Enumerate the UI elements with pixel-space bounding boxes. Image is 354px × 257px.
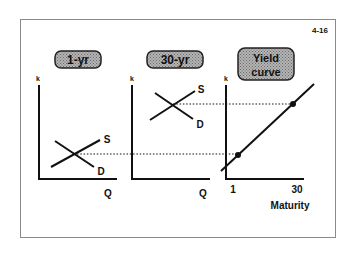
point-1yr: [235, 152, 241, 158]
panel-30yr-market: 30-yr k Q S D: [130, 51, 210, 199]
title-1yr: 1-yr: [67, 53, 89, 67]
supply-label: S: [198, 84, 205, 95]
demand-label: D: [97, 166, 104, 177]
title-curve: curve: [251, 66, 280, 78]
supply-label: S: [104, 134, 111, 145]
title-yield: Yield: [253, 52, 279, 64]
yield-curve-line: [221, 84, 314, 171]
y-axis-label-k: k: [130, 75, 134, 82]
slide-number: 4-16: [312, 26, 329, 35]
title-30yr: 30-yr: [161, 53, 190, 67]
yield-curve-diagram: 4-16 1-yr k Q S D 30-yr k Q S D Yield cu…: [0, 0, 354, 257]
panel-yield-curve: Yield curve k 1 30 Maturity: [221, 48, 314, 211]
y-axis-label-k: k: [36, 75, 40, 82]
x-tick-1: 1: [230, 184, 236, 195]
x-axis-label-q: Q: [104, 188, 112, 199]
x-tick-30: 30: [291, 184, 303, 195]
panel-1yr-market: 1-yr k Q S D: [36, 51, 117, 199]
y-axis-label-k: k: [224, 75, 228, 82]
point-30yr: [290, 101, 296, 107]
x-axis-label-q: Q: [199, 188, 207, 199]
demand-label: D: [196, 119, 203, 130]
x-axis-label-maturity: Maturity: [271, 200, 310, 211]
